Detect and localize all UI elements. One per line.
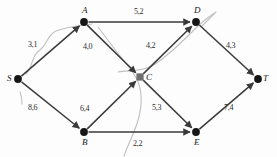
edge-label-b-c: 6,4 [80, 105, 89, 113]
pencil-annotation-layer [20, 12, 216, 156]
edge-c-e [143, 80, 192, 128]
node-label-s: S [7, 74, 12, 83]
edge-label-c-d: 4,2 [146, 42, 155, 50]
graph-canvas [0, 0, 277, 157]
flow-network-diagram: SABCDET 3,18,65,24,06,42,24,25,34,37,4 [0, 0, 277, 157]
node-label-t: T [263, 74, 268, 83]
node-b [80, 128, 88, 136]
node-layer [14, 18, 262, 136]
node-label-e: E [194, 138, 200, 147]
edge-label-b-e: 2,2 [133, 140, 142, 148]
edge-label-a-c: 4,0 [83, 43, 92, 51]
edge-s-a [21, 26, 79, 76]
node-label-b: B [82, 138, 88, 147]
pencil-stroke-cross [118, 12, 216, 72]
pencil-stroke-mid [98, 27, 141, 156]
edge-label-c-e: 5,3 [152, 104, 161, 112]
node-label-c: C [146, 73, 152, 82]
node-a [80, 18, 88, 26]
edge-label-d-t: 4,3 [226, 42, 235, 50]
node-t [254, 75, 262, 83]
edge-label-a-d: 5,2 [134, 8, 143, 16]
node-c [136, 73, 143, 80]
node-d [192, 18, 200, 26]
node-s [14, 75, 22, 83]
node-label-a: A [82, 6, 88, 15]
edge-label-s-a: 3,1 [28, 41, 37, 49]
edge-label-s-b: 8,6 [28, 104, 37, 112]
edge-c-d [143, 26, 192, 74]
pencil-arrow-d [202, 14, 214, 26]
edge-b-c [87, 81, 136, 129]
edge-label-e-t: 7,4 [224, 104, 233, 112]
node-label-d: D [194, 6, 201, 15]
pencil-tick-s [20, 92, 22, 104]
node-e [192, 128, 200, 136]
edge-a-c [87, 25, 136, 73]
